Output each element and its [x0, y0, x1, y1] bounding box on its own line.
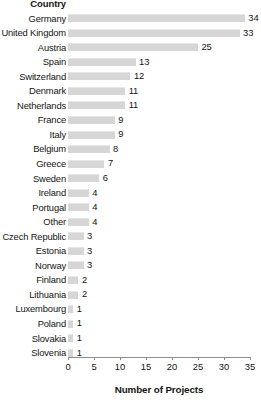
- bar-fill: [68, 305, 73, 313]
- bar-value-label: 3: [87, 230, 92, 241]
- bar-fill: [68, 276, 78, 284]
- bar-value-label: 1: [77, 332, 82, 343]
- bar-value-label: 9: [118, 128, 123, 139]
- category-label: Ireland: [38, 187, 66, 198]
- x-tick: [146, 357, 147, 360]
- bar-value-label: 4: [92, 216, 97, 227]
- category-label: Lithuania: [29, 289, 66, 300]
- bar-row: Switzerland12: [0, 70, 261, 85]
- bar: [68, 145, 110, 153]
- x-tick: [198, 357, 199, 360]
- bar-fill: [68, 320, 73, 328]
- category-label: Denmark: [29, 85, 66, 96]
- x-tick: [250, 357, 251, 360]
- bar: [68, 349, 73, 357]
- bar-fill: [68, 72, 130, 80]
- x-tick: [224, 357, 225, 360]
- bar-fill: [68, 232, 84, 240]
- bar: [68, 101, 125, 109]
- bar-fill: [68, 101, 125, 109]
- category-label: United Kingdom: [1, 27, 66, 38]
- bar-fill: [68, 14, 245, 22]
- bar-row: Portugal4: [0, 201, 261, 216]
- bar: [68, 29, 240, 37]
- bar: [68, 174, 99, 182]
- category-label: Greece: [36, 158, 66, 169]
- bar-fill: [68, 116, 115, 124]
- bar: [68, 305, 73, 313]
- bar-row: United Kingdom33: [0, 27, 261, 42]
- bar-row: Other4: [0, 216, 261, 231]
- bar: [68, 43, 198, 51]
- x-axis-title: Number of Projects: [68, 384, 250, 395]
- bar-value-label: 12: [134, 70, 144, 81]
- bar: [68, 72, 130, 80]
- bar-chart: Country Germany34United Kingdom33Austria…: [0, 0, 261, 403]
- bar-fill: [68, 203, 89, 211]
- bar-row: Norway3: [0, 259, 261, 274]
- bar-fill: [68, 29, 240, 37]
- bar-row: Slovenia1: [0, 347, 261, 362]
- x-tick-label: 20: [160, 361, 184, 372]
- bar: [68, 131, 115, 139]
- bar-value-label: 1: [77, 303, 82, 314]
- bar-row: Estonia3: [0, 245, 261, 260]
- bar: [68, 116, 115, 124]
- x-axis-line: [68, 357, 250, 358]
- bar-value-label: 8: [113, 143, 118, 154]
- bar-fill: [68, 218, 89, 226]
- bar-fill: [68, 189, 89, 197]
- category-label: France: [38, 114, 66, 125]
- bar-row: Lithuania2: [0, 288, 261, 303]
- category-label: Italy: [50, 129, 66, 140]
- bar-row: Luxembourg1: [0, 303, 261, 318]
- bar-row: France9: [0, 114, 261, 129]
- bar: [68, 320, 73, 328]
- category-label: Austria: [38, 42, 66, 53]
- bar-value-label: 11: [129, 99, 139, 110]
- bar-fill: [68, 145, 110, 153]
- x-tick-label: 5: [82, 361, 106, 372]
- bar-value-label: 34: [248, 12, 258, 23]
- category-label: Germany: [28, 13, 66, 24]
- category-label: Netherlands: [17, 100, 66, 111]
- category-label: Estonia: [36, 245, 66, 256]
- bar-value-label: 6: [103, 172, 108, 183]
- x-tick-label: 0: [56, 361, 80, 372]
- bar: [68, 14, 245, 22]
- bar-fill: [68, 247, 84, 255]
- bar-row: Slovakia1: [0, 332, 261, 347]
- bar-row: Sweden6: [0, 172, 261, 187]
- bar-row: Czech Republic3: [0, 230, 261, 245]
- bar-row: Italy9: [0, 128, 261, 143]
- bar-fill: [68, 174, 99, 182]
- bar-value-label: 1: [77, 317, 82, 328]
- category-label: Luxembourg: [15, 303, 66, 314]
- bar: [68, 87, 125, 95]
- bar-value-label: 25: [202, 41, 212, 52]
- category-label: Sweden: [33, 173, 66, 184]
- bar-fill: [68, 334, 73, 342]
- bar-row: Greece7: [0, 157, 261, 172]
- bar-fill: [68, 261, 84, 269]
- bar-value-label: 3: [87, 245, 92, 256]
- bar-value-label: 13: [139, 56, 149, 67]
- bar: [68, 218, 89, 226]
- bar-fill: [68, 291, 78, 299]
- bar-value-label: 11: [129, 85, 139, 96]
- bar: [68, 58, 136, 66]
- bar-row: Belgium8: [0, 143, 261, 158]
- bar-fill: [68, 349, 73, 357]
- x-tick-label: 30: [212, 361, 236, 372]
- bar-fill: [68, 131, 115, 139]
- bar-value-label: 1: [77, 347, 82, 358]
- bar-row: Germany34: [0, 12, 261, 27]
- bar-row: Poland1: [0, 317, 261, 332]
- category-label: Finland: [36, 274, 66, 285]
- x-tick: [120, 357, 121, 360]
- bar-fill: [68, 160, 104, 168]
- y-axis-title: Country: [0, 0, 66, 9]
- category-label: Czech Republic: [2, 231, 66, 242]
- bar: [68, 247, 84, 255]
- category-label: Norway: [35, 260, 66, 271]
